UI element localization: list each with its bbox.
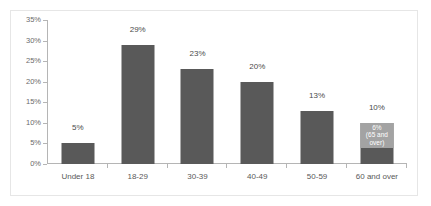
chart-plot-frame: 35% 30% 25% 20% 15% 10% 5% 0% 5% <box>10 10 418 196</box>
x-tick-mark <box>167 164 168 168</box>
bar-value-label: 13% <box>309 91 325 100</box>
x-axis: Under 18 18-29 30-39 40-49 50-59 60 and … <box>48 171 407 185</box>
x-tick-label-60-and-over: 60 and over <box>347 171 407 182</box>
y-tick-mark <box>43 164 47 165</box>
y-tick-mark <box>43 102 47 103</box>
y-tick-label: 20% <box>11 78 41 86</box>
x-tick-mark <box>406 164 407 168</box>
bar[interactable] <box>301 111 334 164</box>
bar-segment-65-and-over[interactable]: 6% (65 and over) <box>360 123 393 148</box>
y-tick-label: 0% <box>11 160 41 168</box>
chart-screenshot: 35% 30% 25% 20% 15% 10% 5% 0% 5% <box>0 0 431 206</box>
bar-slot-30-39: 23% <box>168 20 228 164</box>
bar[interactable] <box>241 82 274 164</box>
y-tick-mark <box>43 143 47 144</box>
bar-slot-50-59: 13% <box>287 20 347 164</box>
y-axis: 35% 30% 25% 20% 15% 10% 5% 0% <box>11 11 47 171</box>
bar-slot-40-49: 20% <box>227 20 287 164</box>
x-tick-label-30-39: 30-39 <box>168 171 228 182</box>
x-tick-mark <box>226 164 227 168</box>
bar-value-label: 23% <box>189 49 205 58</box>
x-tick-label-under-18: Under 18 <box>48 171 108 182</box>
y-tick-mark <box>43 41 47 42</box>
bar[interactable] <box>121 45 154 164</box>
y-tick-label: 5% <box>11 139 41 147</box>
y-tick-label: 30% <box>11 37 41 45</box>
y-tick-mark <box>43 82 47 83</box>
bar-value-label: 20% <box>249 62 265 71</box>
bar-slot-18-29: 29% <box>108 20 168 164</box>
bar-value-label: 5% <box>72 123 84 132</box>
bar-value-label: 29% <box>130 25 146 34</box>
y-tick-mark <box>43 123 47 124</box>
y-tick-label: 25% <box>11 57 41 65</box>
bar[interactable]: 6% (65 and over) <box>360 123 393 164</box>
bar[interactable] <box>181 69 214 164</box>
x-tick-label-40-49: 40-49 <box>227 171 287 182</box>
bar-slot-60-and-over: 10% 6% (65 and over) <box>347 20 407 164</box>
y-tick-label: 15% <box>11 98 41 106</box>
bar[interactable] <box>61 143 94 164</box>
x-tick-mark <box>346 164 347 168</box>
y-tick-mark <box>43 20 47 21</box>
plot-area: 5% 29% 23% 20% 13% <box>48 20 407 164</box>
y-tick-label: 35% <box>11 16 41 24</box>
segment-label-line-1: 6% <box>372 124 381 132</box>
x-tick-label-18-29: 18-29 <box>108 171 168 182</box>
bar-value-label: 10% <box>369 103 385 112</box>
segment-label-line-3: over) <box>369 139 384 147</box>
x-tick-mark <box>286 164 287 168</box>
segment-label-line-2: (65 and <box>366 131 388 139</box>
chart-title-cropped <box>0 0 431 9</box>
y-tick-label: 10% <box>11 119 41 127</box>
y-tick-mark <box>43 61 47 62</box>
x-tick-mark <box>107 164 108 168</box>
bar-slot-under-18: 5% <box>48 20 108 164</box>
x-tick-label-50-59: 50-59 <box>287 171 347 182</box>
